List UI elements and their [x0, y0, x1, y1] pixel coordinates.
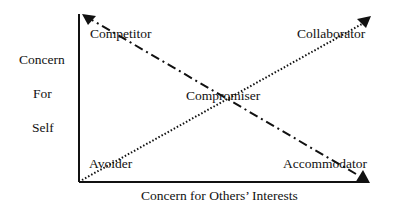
- y-axis-label-line-1: Concern: [19, 53, 65, 67]
- arrowhead-top-left-icon: [82, 14, 96, 25]
- y-axis-label-line-3: Self: [32, 121, 54, 135]
- style-label-collaborator: Collaborator: [297, 27, 365, 41]
- style-label-avoider: Avoider: [89, 157, 132, 171]
- x-axis-label: Concern for Others’ Interests: [141, 189, 298, 203]
- style-label-competitor: Competitor: [90, 27, 152, 41]
- arrowhead-bottom-right-icon: [355, 170, 370, 183]
- y-axis-label-line-2: For: [33, 87, 52, 101]
- style-label-compromiser: Compromiser: [186, 89, 260, 103]
- style-label-accommodator: Accommodator: [283, 157, 367, 171]
